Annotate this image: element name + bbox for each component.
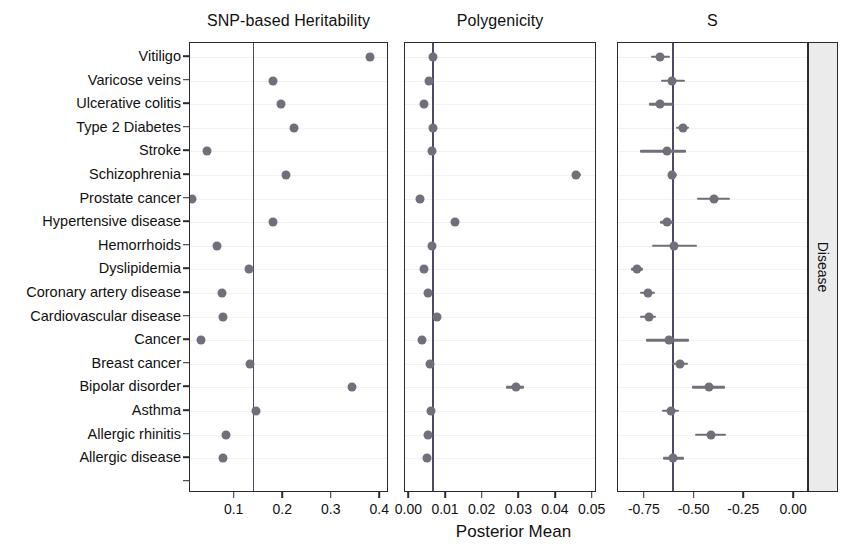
- gridline-0-15: [190, 411, 387, 412]
- x-axis-tick-snp-based-heritability-2: [330, 492, 332, 498]
- point-s-2: [656, 100, 665, 109]
- point-s-5: [668, 171, 677, 180]
- point-snp-based-heritability-17: [219, 454, 228, 463]
- x-axis-tick-s-1: [693, 492, 695, 498]
- x-axis-tick-s-2: [743, 492, 745, 498]
- point-snp-based-heritability-8: [213, 241, 222, 250]
- gridline-2-13: [618, 364, 807, 365]
- point-polygenicity-17: [423, 454, 432, 463]
- x-axis-ticklabel-s-1: -0.50: [678, 501, 710, 517]
- gridline-0-2: [190, 104, 387, 105]
- point-snp-based-heritability-2: [276, 100, 285, 109]
- x-axis-title: Posterior Mean: [189, 522, 838, 542]
- gridline-0-14: [190, 387, 387, 388]
- point-snp-based-heritability-4: [202, 147, 211, 156]
- x-axis-ticklabel-polygenicity-0: 0.00: [395, 501, 422, 517]
- point-polygenicity-14: [511, 383, 520, 392]
- x-axis-tick-polygenicity-5: [591, 492, 593, 498]
- x-axis-ticklabel-s-0: -0.75: [628, 501, 660, 517]
- gridline-0-12: [190, 340, 387, 341]
- y-axis-label-varicose-veins: Varicose veins: [88, 72, 181, 87]
- disease-strip-panel: Disease: [808, 42, 838, 492]
- point-s-13: [676, 359, 685, 368]
- point-snp-based-heritability-11: [219, 312, 228, 321]
- x-axis-ticklabel-polygenicity-3: 0.03: [505, 501, 532, 517]
- point-s-7: [662, 218, 671, 227]
- x-axis-ticklabel-snp-based-heritability-0: 0.1: [224, 501, 243, 517]
- point-polygenicity-12: [418, 336, 427, 345]
- y-axis-label-allergic-rhinitis: Allergic rhinitis: [88, 426, 181, 441]
- x-axis-tick-polygenicity-2: [481, 492, 483, 498]
- reference-line-s: [672, 43, 674, 491]
- gridline-2-5: [618, 175, 807, 176]
- y-axis-label-prostate-cancer: Prostate cancer: [79, 190, 181, 205]
- panel-title-s: S: [617, 12, 808, 30]
- y-axis-label-hypertensive-disease: Hypertensive disease: [42, 214, 181, 229]
- gridline-2-17: [618, 458, 807, 459]
- point-s-9: [632, 265, 641, 274]
- y-axis-label-cancer: Cancer: [134, 332, 181, 347]
- x-axis-ticklabel-polygenicity-4: 0.04: [541, 501, 568, 517]
- x-axis-ticklabel-snp-based-heritability-1: 0.2: [272, 501, 291, 517]
- gridline-2-0: [618, 57, 807, 58]
- x-axis-tick-polygenicity-4: [554, 492, 556, 498]
- point-polygenicity-8: [427, 241, 436, 250]
- point-polygenicity-0: [428, 53, 437, 62]
- point-snp-based-heritability-9: [244, 265, 253, 274]
- point-s-17: [669, 454, 678, 463]
- point-polygenicity-7: [451, 218, 460, 227]
- point-polygenicity-11: [432, 312, 441, 321]
- point-polygenicity-4: [428, 147, 437, 156]
- x-axis-tick-s-0: [643, 492, 645, 498]
- x-axis-ticklabel-polygenicity-5: 0.05: [578, 501, 605, 517]
- gridline-2-3: [618, 128, 807, 129]
- point-snp-based-heritability-15: [251, 407, 260, 416]
- x-axis-ticklabel-s-3: 0.00: [779, 501, 806, 517]
- point-s-16: [706, 430, 715, 439]
- y-axis-label-vitiligo: Vitiligo: [139, 49, 181, 64]
- y-axis-label-coronary-artery-disease: Coronary artery disease: [26, 285, 181, 300]
- point-polygenicity-2: [419, 100, 428, 109]
- point-snp-based-heritability-1: [268, 76, 277, 85]
- x-axis-tick-snp-based-heritability-3: [378, 492, 380, 498]
- panel-title-snp-based-heritability: SNP-based Heritability: [189, 12, 388, 30]
- y-axis-label-dyslipidemia: Dyslipidemia: [99, 261, 181, 276]
- point-snp-based-heritability-14: [348, 383, 357, 392]
- gridline-0-9: [190, 269, 387, 270]
- point-polygenicity-10: [423, 289, 432, 298]
- x-axis-ticklabel-polygenicity-2: 0.02: [468, 501, 495, 517]
- y-axis-label-bipolar-disorder: Bipolar disorder: [79, 379, 181, 394]
- y-axis-label-stroke: Stroke: [139, 143, 181, 158]
- x-axis-tick-polygenicity-1: [444, 492, 446, 498]
- y-axis-label-asthma: Asthma: [132, 403, 181, 418]
- y-axis-label-schizophrenia: Schizophrenia: [89, 167, 181, 182]
- gridline-0-13: [190, 364, 387, 365]
- point-s-8: [669, 241, 678, 250]
- point-s-11: [644, 312, 653, 321]
- point-snp-based-heritability-3: [289, 123, 298, 132]
- panel-polygenicity: [404, 42, 596, 492]
- panel-snp-based-heritability: [189, 42, 388, 492]
- point-snp-based-heritability-12: [196, 336, 205, 345]
- point-polygenicity-9: [419, 265, 428, 274]
- point-snp-based-heritability-0: [365, 53, 374, 62]
- point-snp-based-heritability-10: [217, 289, 226, 298]
- x-axis-tick-polygenicity-3: [518, 492, 520, 498]
- point-polygenicity-6: [416, 194, 425, 203]
- x-axis-tick-snp-based-heritability-1: [281, 492, 283, 498]
- gridline-0-0: [190, 57, 387, 58]
- y-axis-label-type-2-diabetes: Type 2 Diabetes: [76, 120, 181, 135]
- y-axis-label-hemorrhoids: Hemorrhoids: [98, 238, 181, 253]
- point-s-10: [643, 289, 652, 298]
- reference-line-polygenicity: [432, 43, 434, 491]
- x-axis-ticklabel-s-2: -0.25: [727, 501, 759, 517]
- gridline-2-7: [618, 222, 807, 223]
- point-snp-based-heritability-16: [221, 430, 230, 439]
- point-s-6: [710, 194, 719, 203]
- point-polygenicity-1: [424, 76, 433, 85]
- gridline-2-8: [618, 246, 807, 247]
- point-polygenicity-5: [572, 171, 581, 180]
- x-axis-ticklabel-snp-based-heritability-3: 0.4: [370, 501, 389, 517]
- point-snp-based-heritability-5: [282, 171, 291, 180]
- panel-title-polygenicity: Polygenicity: [404, 12, 596, 30]
